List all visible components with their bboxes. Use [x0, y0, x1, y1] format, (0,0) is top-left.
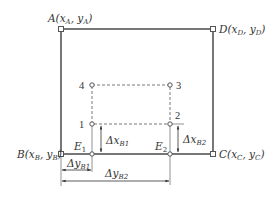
label-dx-b1: ΔxB1	[105, 134, 129, 148]
label-d: D(xD, yD)	[218, 23, 265, 37]
label-dx-b2: ΔxB2	[182, 133, 207, 147]
label-e2: E2	[154, 140, 167, 154]
corner-d-marker	[211, 27, 216, 32]
point-e1-marker	[90, 152, 94, 156]
label-point-3: 3	[176, 80, 181, 91]
label-point-1: 1	[79, 119, 84, 130]
point-3-marker	[168, 83, 172, 87]
label-a: A(xA, yA)	[47, 12, 92, 26]
corner-c-marker	[211, 152, 216, 157]
point-e2-marker	[168, 152, 172, 156]
label-dy-b1: ΔyB1	[66, 157, 90, 171]
label-point-2: 2	[175, 110, 180, 121]
point-1-marker	[90, 122, 94, 126]
inner-dashed-rectangle	[92, 85, 170, 124]
label-dy-b2: ΔyB2	[104, 167, 129, 181]
coordinate-diagram: A(xA, yA) D(xD, yD) B(xB, yB) C(xC, yC) …	[0, 0, 272, 203]
label-b: B(xB, yB)	[16, 148, 62, 162]
label-point-4: 4	[79, 80, 85, 91]
point-4-marker	[90, 83, 94, 87]
corner-a-marker	[59, 27, 64, 32]
label-c: C(xC, yC)	[219, 148, 265, 162]
label-e1: E1	[73, 140, 86, 154]
point-2-marker	[168, 122, 172, 126]
